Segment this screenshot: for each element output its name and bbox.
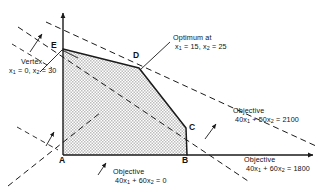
- leader-arrow-1800-upper: [30, 34, 42, 52]
- annotation-optimum-line2: x1 = 15, x2 = 25: [173, 42, 227, 53]
- vertex-label-C: C: [189, 122, 195, 132]
- annotation-optimum-line1: Optimum at: [173, 33, 227, 42]
- annotation-objective-2100: Objective 40x1 + 50x2 = 2100: [233, 106, 299, 126]
- leader-arrow-2100: [205, 124, 216, 139]
- annotation-objective-zero-line2: 40x1 + 60x2 = 0: [113, 176, 167, 187]
- vertex-label-D: D: [133, 50, 139, 60]
- annotation-objective-2100-line2: 40x1 + 50x2 = 2100: [233, 115, 299, 126]
- annotation-objective-2100-line1: Objective: [233, 106, 299, 115]
- leader-line-optimum: [140, 42, 170, 70]
- leader-arrow-objective-zero-label: [98, 163, 106, 175]
- annotation-objective-1800-line2: 40x1 + 60x2 = 1800: [244, 164, 310, 175]
- vertex-label-E: E: [51, 40, 57, 50]
- lp-feasible-region-figure: A B C D E Optimum at x1 = 15, x2 = 25 Ve…: [0, 0, 327, 196]
- annotation-objective-1800: Objective 40x1 + 60x2 = 1800: [244, 155, 310, 175]
- annotation-vertex-line1: Vertex: [7, 57, 57, 66]
- vertex-label-B: B: [182, 155, 188, 165]
- annotation-objective-zero-line1: Objective: [113, 167, 167, 176]
- annotation-vertex-line2: x1 = 0, x2 = 30: [7, 66, 57, 77]
- annotation-objective-1800-line1: Objective: [244, 155, 310, 164]
- leader-dash-objective-zero: [17, 127, 58, 150]
- vertex-label-A: A: [59, 155, 65, 165]
- annotation-vertex: Vertex x1 = 0, x2 = 30: [7, 57, 57, 77]
- leader-arrow-objective-zero: [46, 132, 54, 146]
- annotation-optimum: Optimum at x1 = 15, x2 = 25: [173, 33, 227, 53]
- annotation-objective-zero: Objective 40x1 + 60x2 = 0: [113, 167, 167, 187]
